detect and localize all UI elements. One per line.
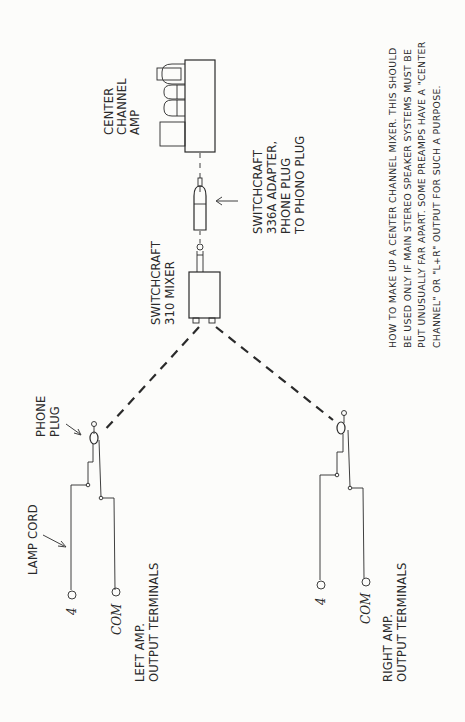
center-channel-mixer-diagram: CENTER CHANNEL AMP SWITCHCRAFT 336A ADAP… — [0, 0, 465, 722]
svg-text:LAMP CORD: LAMP CORD — [26, 504, 40, 575]
svg-text:COM: COM — [359, 592, 373, 624]
right-terminal-com — [362, 578, 370, 586]
svg-text:4: 4 — [314, 597, 328, 606]
mixer-body — [189, 272, 220, 318]
svg-text:SWITCHCRAFT: SWITCHCRAFT — [251, 149, 265, 234]
right-cable — [216, 327, 333, 420]
right-lamp-cord — [320, 430, 364, 580]
right-terminal-4 — [317, 581, 325, 589]
left-cable — [103, 327, 199, 432]
left-lamp-cord — [71, 440, 115, 590]
lamp-cord-arrow-icon — [43, 535, 66, 547]
left-phone-plug-label: PHONE PLUG — [34, 395, 62, 437]
mixer — [189, 244, 220, 323]
left-terminal-4 — [68, 591, 76, 599]
svg-text:RIGHT AMP.: RIGHT AMP. — [381, 614, 395, 682]
svg-text:CENTER: CENTER — [102, 88, 116, 135]
svg-text:CHANNEL" OR "L+R" OUTPUT FOR S: CHANNEL" OR "L+R" OUTPUT FOR SUCH A PURP… — [431, 85, 442, 348]
svg-text:PHONE: PHONE — [34, 395, 48, 437]
adapter-pin — [198, 178, 202, 186]
phone-plug-arrow-icon — [66, 424, 81, 435]
amp-transformer — [160, 122, 185, 146]
left-phone-plug — [90, 422, 98, 445]
lamp-cord-label: LAMP CORD — [26, 504, 40, 575]
svg-text:310 MIXER: 310 MIXER — [163, 261, 177, 325]
adapter — [194, 178, 206, 230]
svg-text:COM: COM — [110, 603, 124, 635]
center-channel-amp — [157, 60, 215, 152]
amp-tube-2 — [164, 85, 185, 99]
adapter-body — [194, 186, 206, 230]
mixer-plug-shaft — [197, 251, 203, 272]
figure-caption: HOW TO MAKE UP A CENTER CHANNEL MIXER. T… — [387, 41, 442, 348]
svg-text:SWITCHCRAFT: SWITCHCRAFT — [149, 240, 163, 325]
right-phone-plug — [337, 411, 347, 435]
svg-text:PLUG: PLUG — [48, 406, 62, 437]
mixer-plug-tip — [197, 244, 203, 250]
mixer-input-1 — [193, 318, 199, 323]
left-amp-label: LEFT AMP. OUTPUT TERMINALS — [133, 563, 161, 683]
svg-text:LEFT AMP.: LEFT AMP. — [133, 623, 147, 682]
adapter-label: SWITCHCRAFT 336A ADAPTER, PHONE PLUG TO … — [251, 136, 307, 235]
svg-text:OUTPUT TERMINALS: OUTPUT TERMINALS — [147, 563, 161, 683]
right-amp-label: RIGHT AMP. OUTPUT TERMINALS — [381, 563, 409, 683]
svg-text:TO PHONO PLUG: TO PHONO PLUG — [293, 136, 307, 235]
amp-chassis — [185, 60, 215, 152]
mixer-input-2 — [209, 318, 215, 323]
svg-text:AMP: AMP — [128, 110, 142, 135]
svg-text:HOW TO MAKE UP A CENTER CHANNE: HOW TO MAKE UP A CENTER CHANNEL MIXER. T… — [387, 48, 398, 349]
center-amp-label: CENTER CHANNEL AMP — [102, 78, 142, 135]
svg-text:4: 4 — [65, 607, 79, 616]
adapter-arrow-icon — [216, 197, 238, 205]
svg-text:BE USED ONLY IF MAIN STEREO SP: BE USED ONLY IF MAIN STEREO SPEAKER SYST… — [402, 49, 413, 348]
svg-text:336A ADAPTER,: 336A ADAPTER, — [265, 141, 279, 234]
amp-tube-1 — [164, 100, 185, 116]
svg-text:PUT UNUSUALLY FAR APART. SOME: PUT UNUSUALLY FAR APART. SOME PREAMPS HA… — [416, 41, 427, 348]
amp-tube-3-cap — [157, 68, 181, 80]
mixer-label: SWITCHCRAFT 310 MIXER — [149, 240, 177, 325]
left-terminal-com — [112, 588, 120, 596]
svg-text:CHANNEL: CHANNEL — [115, 78, 129, 135]
amp-tube-3 — [162, 64, 185, 84]
svg-text:PHONE PLUG: PHONE PLUG — [279, 158, 293, 234]
svg-text:OUTPUT TERMINALS: OUTPUT TERMINALS — [395, 563, 409, 683]
